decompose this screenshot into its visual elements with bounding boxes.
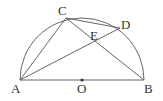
- segment-CD: [66, 18, 120, 28]
- label-E: E: [90, 28, 98, 43]
- label-C: C: [58, 3, 67, 18]
- geometry-diagram: A B O C D E: [0, 0, 163, 101]
- segment-CB: [66, 18, 144, 80]
- label-O: O: [77, 81, 86, 96]
- segment-AC: [20, 18, 66, 80]
- label-B: B: [144, 81, 153, 96]
- label-A: A: [11, 81, 21, 96]
- segment-AD: [20, 28, 120, 80]
- label-D: D: [121, 17, 130, 32]
